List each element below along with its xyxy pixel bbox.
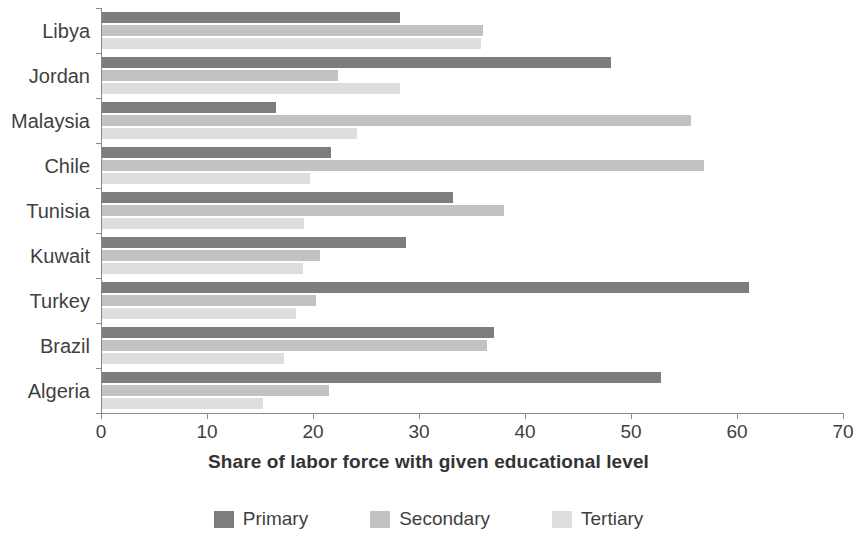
bar-group: Jordan bbox=[102, 53, 844, 98]
bar-tertiary bbox=[102, 353, 284, 364]
bar-tertiary bbox=[102, 398, 263, 409]
bar-primary bbox=[102, 57, 611, 68]
category-label: Libya bbox=[42, 21, 90, 41]
bar-tertiary bbox=[102, 263, 303, 274]
bar-primary bbox=[102, 102, 276, 113]
y-axis-tick bbox=[96, 188, 102, 189]
legend-label: Secondary bbox=[399, 508, 490, 530]
bar-group: Tunisia bbox=[102, 188, 844, 233]
x-axis-tick bbox=[313, 413, 314, 419]
x-axis-title: Share of labor force with given educatio… bbox=[0, 451, 857, 473]
x-axis-tick-label: 30 bbox=[389, 421, 449, 443]
bar-tertiary bbox=[102, 308, 296, 319]
x-axis-tick bbox=[631, 413, 632, 419]
category-label: Jordan bbox=[29, 66, 90, 86]
y-axis-tick bbox=[96, 53, 102, 54]
bar-secondary bbox=[102, 205, 504, 216]
y-axis-tick bbox=[96, 143, 102, 144]
bar-chart: LibyaJordanMalaysiaChileTunisiaKuwaitTur… bbox=[0, 0, 857, 542]
y-axis-tick bbox=[96, 233, 102, 234]
x-axis-tick-label: 20 bbox=[283, 421, 343, 443]
bar-primary bbox=[102, 327, 494, 338]
x-axis-line bbox=[101, 413, 844, 414]
plot-area: LibyaJordanMalaysiaChileTunisiaKuwaitTur… bbox=[102, 8, 844, 413]
x-axis-tick bbox=[207, 413, 208, 419]
bar-group: Libya bbox=[102, 8, 844, 53]
x-axis-tick-label: 70 bbox=[813, 421, 857, 443]
legend-item[interactable]: Secondary bbox=[370, 508, 490, 530]
bar-secondary bbox=[102, 250, 320, 261]
bar-secondary bbox=[102, 115, 691, 126]
legend-item[interactable]: Primary bbox=[214, 508, 308, 530]
bar-tertiary bbox=[102, 218, 304, 229]
bar-secondary bbox=[102, 340, 487, 351]
x-axis-tick-label: 60 bbox=[707, 421, 767, 443]
x-axis-tick-label: 40 bbox=[495, 421, 555, 443]
bar-primary bbox=[102, 147, 331, 158]
bar-group: Brazil bbox=[102, 323, 844, 368]
chart-legend: PrimarySecondaryTertiary bbox=[0, 508, 857, 530]
bar-group: Algeria bbox=[102, 368, 844, 413]
legend-label: Primary bbox=[243, 508, 308, 530]
y-axis-tick bbox=[96, 98, 102, 99]
bar-tertiary bbox=[102, 83, 400, 94]
category-label: Kuwait bbox=[30, 246, 90, 266]
category-label: Tunisia bbox=[26, 201, 90, 221]
bar-primary bbox=[102, 237, 406, 248]
category-label: Turkey bbox=[30, 291, 90, 311]
legend-label: Tertiary bbox=[581, 508, 643, 530]
bar-secondary bbox=[102, 25, 483, 36]
bar-secondary bbox=[102, 385, 329, 396]
x-axis-tick bbox=[843, 413, 844, 419]
x-axis-tick bbox=[101, 413, 102, 419]
bar-primary bbox=[102, 372, 661, 383]
bar-group: Kuwait bbox=[102, 233, 844, 278]
bar-secondary bbox=[102, 70, 338, 81]
bar-primary bbox=[102, 282, 749, 293]
bar-group: Turkey bbox=[102, 278, 844, 323]
x-axis-tick-label: 50 bbox=[601, 421, 661, 443]
x-axis-tick bbox=[525, 413, 526, 419]
bar-tertiary bbox=[102, 38, 481, 49]
bar-secondary bbox=[102, 295, 316, 306]
x-axis-tick bbox=[737, 413, 738, 419]
category-label: Malaysia bbox=[11, 111, 90, 131]
category-label: Algeria bbox=[28, 381, 90, 401]
x-axis-tick bbox=[419, 413, 420, 419]
legend-swatch-icon bbox=[552, 511, 572, 528]
legend-item[interactable]: Tertiary bbox=[552, 508, 643, 530]
bar-primary bbox=[102, 192, 453, 203]
bar-group: Malaysia bbox=[102, 98, 844, 143]
bar-secondary bbox=[102, 160, 704, 171]
category-label: Brazil bbox=[40, 336, 90, 356]
bar-tertiary bbox=[102, 128, 357, 139]
legend-swatch-icon bbox=[370, 511, 390, 528]
legend-swatch-icon bbox=[214, 511, 234, 528]
bar-primary bbox=[102, 12, 400, 23]
y-axis-tick bbox=[96, 8, 102, 9]
y-axis-tick bbox=[96, 368, 102, 369]
y-axis-tick bbox=[96, 278, 102, 279]
y-axis-tick bbox=[96, 323, 102, 324]
x-axis-tick-label: 0 bbox=[71, 421, 131, 443]
bar-group: Chile bbox=[102, 143, 844, 188]
category-label: Chile bbox=[44, 156, 90, 176]
bar-tertiary bbox=[102, 173, 310, 184]
x-axis-tick-label: 10 bbox=[177, 421, 237, 443]
